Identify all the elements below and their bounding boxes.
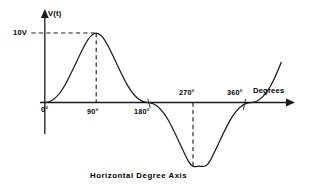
x-axis-label: Degrees [253, 87, 284, 95]
figure-caption: Horizontal Degree Axis [90, 172, 187, 180]
tick-label-270-degrees: 270° [179, 89, 195, 96]
horizontal-axis [40, 99, 295, 107]
figure-canvas [0, 0, 315, 194]
vertical-axis [41, 9, 49, 134]
tick-label-90-degrees: 90° [87, 108, 98, 115]
peak-voltage-label: 10V [13, 29, 27, 37]
y-axis-label: V(t) [48, 10, 61, 18]
sine-wave-figure: V(t) 10V Degrees 0° 90° 180° 270° 360° H… [0, 0, 315, 194]
x-axis-arrowhead [286, 99, 295, 107]
tick-label-0-degrees: 0° [41, 106, 48, 113]
tick-label-180-degrees: 180° [134, 108, 150, 115]
tick-label-360-degrees: 360° [227, 89, 243, 96]
axis-tick-marks [148, 99, 246, 110]
